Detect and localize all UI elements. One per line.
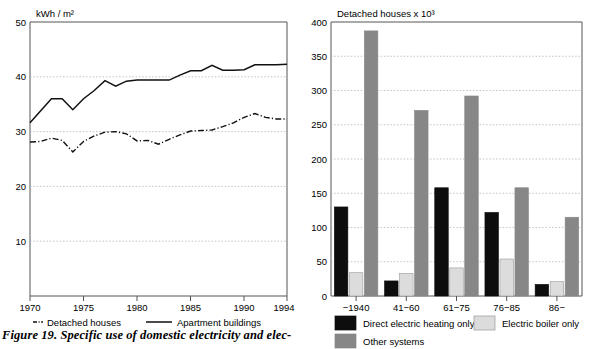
bar-y-tick-50: 50 bbox=[316, 256, 327, 267]
legend-swatch-other-systems bbox=[335, 334, 356, 348]
bar-electric-boiler-only-2 bbox=[450, 268, 464, 296]
bar-chart-title: Detached houses x 10³ bbox=[337, 8, 435, 19]
line-chart: 50 40 30 20 10 kWh / m² 1970 1975 bbox=[15, 8, 294, 328]
bar-y-tick-150: 150 bbox=[311, 188, 327, 199]
line-chart-ylabel: kWh / m² bbox=[36, 8, 74, 19]
line-chart-y-ticklabels: 50 40 30 20 10 bbox=[15, 17, 26, 247]
x-tick-1985: 1985 bbox=[180, 302, 201, 313]
bar-y-tick-350: 350 bbox=[311, 51, 327, 62]
bar-electric-boiler-only-4 bbox=[550, 282, 564, 296]
y-tick-10: 10 bbox=[15, 236, 26, 247]
bar-x-tick-label-1: 41−60 bbox=[393, 302, 420, 313]
line-chart-x-ticklabels: 1970 1975 1980 1985 1990 1994 bbox=[19, 302, 294, 313]
bar-other-systems-4 bbox=[565, 217, 579, 296]
legend-label-direct-electric-heating-only: Direct electric heating only bbox=[363, 318, 475, 329]
bar-chart: 400 350 300 250 200 150 100 50 0 Detache… bbox=[311, 8, 582, 348]
x-tick-1990: 1990 bbox=[233, 302, 254, 313]
bar-direct-electric-heating-only-4 bbox=[535, 284, 549, 296]
bar-x-tick-label-0: −1940 bbox=[343, 302, 370, 313]
bar-direct-electric-heating-only-1 bbox=[385, 281, 399, 296]
bar-other-systems-3 bbox=[515, 188, 529, 296]
bar-y-tick-250: 250 bbox=[311, 119, 327, 130]
bar-y-tick-400: 400 bbox=[311, 17, 327, 28]
line-chart-x-ticks bbox=[30, 296, 287, 301]
legend-label-detached-houses: Detached houses bbox=[47, 317, 121, 328]
bar-chart-y-ticklabels: 400 350 300 250 200 150 100 50 0 bbox=[311, 17, 327, 302]
bar-y-tick-200: 200 bbox=[311, 154, 327, 165]
legend-label-apartment-buildings: Apartment buildings bbox=[177, 317, 261, 328]
bar-x-tick-label-3: 76−85 bbox=[493, 302, 520, 313]
series-detached-houses bbox=[30, 114, 287, 152]
bar-direct-electric-heating-only-2 bbox=[435, 188, 449, 296]
line-chart-axes bbox=[30, 22, 287, 296]
y-tick-40: 40 bbox=[15, 71, 26, 82]
x-tick-1980: 1980 bbox=[126, 302, 147, 313]
y-tick-50: 50 bbox=[15, 17, 26, 28]
bar-direct-electric-heating-only-0 bbox=[334, 207, 348, 296]
bar-electric-boiler-only-3 bbox=[500, 259, 514, 296]
legend-swatch-electric-boiler-only bbox=[474, 316, 495, 330]
y-tick-20: 20 bbox=[15, 181, 26, 192]
figure-svg: 50 40 30 20 10 kWh / m² 1970 1975 bbox=[0, 0, 589, 349]
legend-swatch-direct-electric-heating-only bbox=[335, 316, 356, 330]
legend-label-other-systems: Other systems bbox=[363, 336, 424, 347]
bar-other-systems-2 bbox=[465, 96, 479, 296]
figure-caption: Figure 19. Specific use of domestic elec… bbox=[2, 328, 302, 343]
bar-other-systems-1 bbox=[415, 110, 429, 296]
x-tick-1975: 1975 bbox=[73, 302, 94, 313]
y-tick-30: 30 bbox=[15, 126, 26, 137]
bar-chart-legend: Direct electric heating only Electric bo… bbox=[335, 316, 579, 348]
series-apartment-buildings bbox=[30, 64, 287, 123]
x-tick-1994: 1994 bbox=[273, 302, 294, 313]
x-tick-1970: 1970 bbox=[19, 302, 40, 313]
line-chart-gridlines bbox=[30, 77, 287, 241]
bar-chart-bars bbox=[334, 31, 578, 296]
bar-electric-boiler-only-1 bbox=[400, 273, 414, 296]
bar-y-tick-0: 0 bbox=[322, 291, 327, 302]
bar-y-tick-300: 300 bbox=[311, 85, 327, 96]
legend-label-electric-boiler-only: Electric boiler only bbox=[502, 318, 579, 329]
line-chart-legend: Detached houses Apartment buildings bbox=[33, 317, 261, 328]
bar-x-tick-label-2: 61−75 bbox=[443, 302, 470, 313]
bar-electric-boiler-only-0 bbox=[349, 273, 363, 296]
bar-direct-electric-heating-only-3 bbox=[485, 212, 499, 296]
bar-chart-x-ticklabels: −194041−6061−7576−8586− bbox=[343, 296, 566, 313]
bar-y-tick-100: 100 bbox=[311, 222, 327, 233]
figure-19: 50 40 30 20 10 kWh / m² 1970 1975 bbox=[0, 0, 589, 349]
bar-other-systems-0 bbox=[364, 31, 378, 296]
bar-x-tick-label-4: 86− bbox=[549, 302, 566, 313]
